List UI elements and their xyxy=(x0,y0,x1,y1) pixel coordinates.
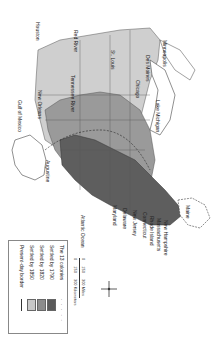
label-delaware: Delaware xyxy=(122,208,127,229)
legend-item-1790: Settled by 1790 xyxy=(47,241,57,333)
map-legend: The 13 colonies· · · · · Settled by 1790… xyxy=(8,240,68,334)
label-chicago: Chicago xyxy=(135,80,140,98)
label-massachusetts: Massachusetts xyxy=(156,218,161,251)
great-lakes xyxy=(150,60,175,135)
compass-rose-icon xyxy=(100,280,118,298)
maine xyxy=(178,198,210,228)
label-tennessee-river: Tennessee River xyxy=(70,75,75,112)
label-gulf: Gulf of Mexico xyxy=(17,100,22,132)
label-maine: Maine xyxy=(185,205,190,219)
label-st-louis: St. Louis xyxy=(110,50,115,69)
label-new-hampshire: New Hampshire xyxy=(163,220,168,256)
label-rhode-island: Rhode Island xyxy=(149,216,154,245)
scale-bar: 0150300 Miles 0150300 Kilometers xyxy=(73,258,86,306)
label-new-jersey: New Jersey xyxy=(132,210,137,236)
label-houston: Houston xyxy=(35,22,40,41)
label-atlantic: Atlantic Ocean xyxy=(80,215,85,248)
legend-item-1820: Settled by 1820 xyxy=(37,241,47,333)
label-lake-michigan: Lake Michigan xyxy=(155,100,160,132)
label-connecticut: Connecticut xyxy=(142,212,147,238)
florida xyxy=(12,135,46,180)
label-red-river: Red River xyxy=(73,30,78,52)
label-des-moines: Des Moines xyxy=(145,55,150,81)
legend-item-1850: Settled by 1850 xyxy=(27,241,37,333)
label-minneapolis: Minneapolis xyxy=(162,40,167,67)
legend-item-border: Present-day border xyxy=(17,241,27,333)
legend-item-colonies: The 13 colonies· · · · · xyxy=(57,241,67,333)
label-augustine: Augustine xyxy=(45,160,50,182)
label-new-orleans: New Orleans xyxy=(37,90,42,119)
label-maryland: Maryland xyxy=(112,205,117,226)
